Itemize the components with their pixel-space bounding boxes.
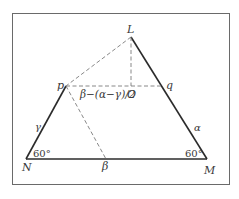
label-N: N [22, 162, 32, 173]
label-q: q [166, 80, 173, 91]
label-gamma: γ [35, 122, 41, 132]
label-p: p [57, 80, 64, 91]
label-M: M [204, 165, 215, 176]
label-angle-M: 60° [185, 149, 203, 159]
label-expression: β−(α−γ)/2 [80, 89, 135, 100]
label-alpha: α [194, 123, 201, 133]
label-angle-N: 60° [33, 149, 51, 159]
edge-L-p [66, 37, 131, 86]
edge-L-M [131, 37, 207, 159]
label-beta: β [102, 161, 108, 172]
label-L: L [127, 24, 134, 35]
